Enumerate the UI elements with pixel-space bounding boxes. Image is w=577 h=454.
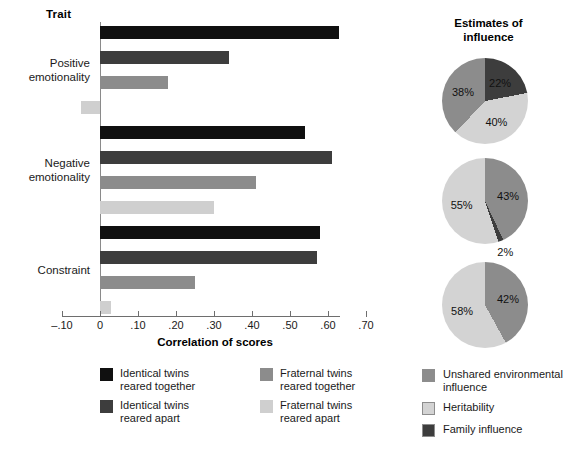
x-axis-tick <box>328 311 329 317</box>
x-axis-tick-label: .30 <box>206 319 221 331</box>
pie-title-line1: Estimates of <box>454 17 522 29</box>
x-axis-title: Correlation of scores <box>100 336 330 348</box>
trait-label-line2: emotionality <box>6 171 90 185</box>
legend-item[interactable]: Fraternal twins reared together <box>260 367 355 392</box>
x-axis-tick <box>214 311 215 317</box>
pie-legend-swatch-icon <box>422 369 435 382</box>
x-axis-tick-label: –.10 <box>51 319 72 331</box>
trait-label: Negativeemotionality <box>6 157 90 184</box>
legend-item-label: Fraternal twins reared together <box>280 367 355 392</box>
bar <box>100 51 229 64</box>
bar <box>100 76 168 89</box>
legend-swatch-icon <box>100 400 113 413</box>
x-axis-tick-label: .50 <box>282 319 297 331</box>
x-axis-tick-label: .70 <box>358 319 373 331</box>
x-axis-tick <box>62 311 63 317</box>
pie-slice-label: 43% <box>497 190 519 202</box>
legend-swatch-icon <box>100 368 113 381</box>
x-axis-tick <box>366 311 367 317</box>
legend-item-label: Identical twins reared together <box>120 367 195 392</box>
trait-label: Constraint <box>6 264 90 278</box>
legend-swatch-icon <box>260 368 273 381</box>
x-axis-line <box>62 316 340 317</box>
x-axis-tick <box>100 311 101 317</box>
pie-legend-item-label: Heritability <box>443 401 494 414</box>
pie-slice-label: 42% <box>497 293 519 305</box>
trait-label: Positiveemotionality <box>6 57 90 84</box>
pie-legend-item-label: Family influence <box>443 423 522 436</box>
bar <box>100 151 332 164</box>
pie-chart-panel: Estimates of influence 22%40%38%43%2%55%… <box>400 0 577 454</box>
x-axis-tick <box>138 311 139 317</box>
legend-item[interactable]: Identical twins reared together <box>100 367 195 392</box>
pie-slice-label: 40% <box>485 116 507 128</box>
pie-section-title: Estimates of influence <box>400 16 577 44</box>
trait-axis-header: Trait <box>46 8 71 20</box>
x-axis-tick <box>176 311 177 317</box>
bar <box>100 126 305 139</box>
pie-slice-label: 22% <box>489 77 511 89</box>
pie-legend-swatch-icon <box>422 424 435 437</box>
bar <box>100 276 195 289</box>
legend-item-label: Fraternal twins reared apart <box>280 399 352 424</box>
trait-label-line1: Negative <box>6 157 90 171</box>
x-axis-tick <box>252 311 253 317</box>
bar <box>100 26 339 39</box>
pie-chart <box>442 58 528 144</box>
pie-chart-legend: Unshared environmental influenceHeritabi… <box>422 368 577 445</box>
x-axis-tick-label: .60 <box>320 319 335 331</box>
pie-title-line2: influence <box>463 31 513 43</box>
bar-plot-area <box>100 22 330 312</box>
pie-slice-label: 58% <box>451 305 473 317</box>
bar <box>100 201 214 214</box>
bar <box>100 301 111 314</box>
x-axis-tick-label: .10 <box>130 319 145 331</box>
bar <box>100 176 256 189</box>
x-axis-tick <box>290 311 291 317</box>
legend-swatch-icon <box>260 400 273 413</box>
bar <box>81 101 100 114</box>
legend-item[interactable]: Fraternal twins reared apart <box>260 399 352 424</box>
pie-legend-item[interactable]: Unshared environmental influence <box>422 368 577 393</box>
pie-slice-label: 2% <box>497 246 513 258</box>
pie-slice-label: 55% <box>451 199 473 211</box>
pie-legend-item[interactable]: Heritability <box>422 401 577 415</box>
pie-legend-item-label: Unshared environmental influence <box>443 368 577 393</box>
legend-item[interactable]: Identical twins reared apart <box>100 399 189 424</box>
trait-label-line1: Constraint <box>6 264 90 278</box>
legend-item-label: Identical twins reared apart <box>120 399 189 424</box>
pie-legend-swatch-icon <box>422 402 435 415</box>
figure-root: Trait Correlation of scores Identical tw… <box>0 0 577 454</box>
bar-chart-panel: Trait Correlation of scores Identical tw… <box>0 0 395 360</box>
x-axis-tick-label: .20 <box>168 319 183 331</box>
trait-label-line1: Positive <box>6 57 90 71</box>
bar <box>100 226 320 239</box>
x-axis-tick-label: .40 <box>244 319 259 331</box>
x-axis-tick-label: 0 <box>97 319 103 331</box>
pie-slice-label: 38% <box>452 86 474 98</box>
bar-chart-legend: Identical twins reared togetherFraternal… <box>100 367 390 429</box>
pie-legend-item[interactable]: Family influence <box>422 423 577 437</box>
trait-label-line2: emotionality <box>6 71 90 85</box>
bar <box>100 251 317 264</box>
